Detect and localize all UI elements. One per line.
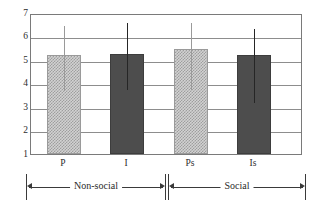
error-bar-p	[64, 26, 65, 91]
bar-chart: 7 6 5 4 3 2 1 P I Ps Is	[0, 0, 318, 210]
plot-area	[30, 14, 302, 155]
y-tick-label: 5	[6, 56, 28, 66]
gridline-6	[31, 38, 301, 39]
group-label-non-social: Non-social	[70, 179, 122, 193]
arrow-left-icon	[169, 183, 174, 189]
error-bar-i	[127, 23, 128, 90]
y-tick-label: 2	[6, 126, 28, 136]
y-tick-label: 7	[6, 9, 28, 19]
group-bracket-social: Social	[168, 174, 306, 200]
x-tick-label-is: Is	[250, 157, 257, 169]
y-tick-label: 1	[6, 150, 28, 160]
bracket-endcap-right-icon	[165, 174, 166, 200]
x-tick-label-ps: Ps	[186, 157, 195, 169]
arrow-left-icon	[27, 183, 32, 189]
x-tick-label-p: P	[60, 157, 65, 169]
group-bracket-non-social: Non-social	[26, 174, 166, 200]
y-tick-label: 4	[6, 79, 28, 89]
y-tick-label: 6	[6, 32, 28, 42]
x-tick-label-i: I	[124, 157, 127, 169]
bracket-line-right	[251, 187, 303, 188]
error-bar-ps	[191, 23, 192, 90]
arrow-right-icon	[160, 183, 165, 189]
bracket-endcap-right-icon	[305, 174, 306, 200]
bracket-line-left	[171, 187, 223, 188]
arrow-right-icon	[300, 183, 305, 189]
bracket-line-right	[115, 187, 163, 188]
group-brackets: Non-social Social	[0, 174, 318, 204]
y-tick-label: 3	[6, 103, 28, 113]
group-label-social: Social	[221, 179, 254, 193]
x-axis-labels: P I Ps Is	[30, 157, 302, 171]
error-bar-is	[254, 29, 255, 103]
